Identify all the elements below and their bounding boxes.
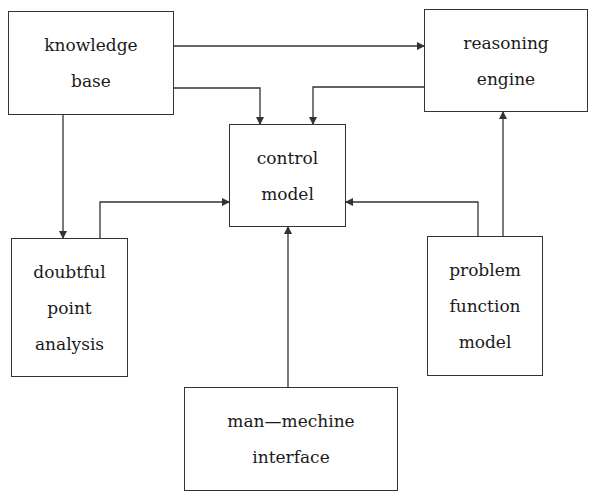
- node-control-model: control model: [229, 124, 346, 227]
- arrow-re-to-cm: [313, 87, 424, 124]
- node-label: control: [257, 140, 318, 176]
- node-problem-function-model: problem function model: [427, 236, 543, 376]
- node-knowledge-base: knowledge base: [8, 11, 174, 115]
- arrow-kb-to-cm: [174, 88, 260, 124]
- node-label: knowledge: [44, 27, 137, 63]
- node-label: engine: [477, 61, 535, 97]
- node-reasoning-engine: reasoning engine: [424, 9, 588, 112]
- node-label: analysis: [35, 326, 104, 362]
- node-label: doubtful: [33, 254, 105, 290]
- node-label: point: [47, 290, 91, 326]
- node-label: problem: [449, 252, 521, 288]
- node-label: model: [459, 324, 512, 360]
- node-label: man—mechine: [227, 403, 354, 439]
- node-label: reasoning: [463, 25, 549, 61]
- node-label: base: [71, 63, 111, 99]
- node-label: interface: [252, 439, 329, 475]
- node-doubtful-point-analysis: doubtful point analysis: [11, 238, 128, 377]
- node-label: function: [449, 288, 520, 324]
- node-label: model: [261, 176, 314, 212]
- arrow-pfm-to-cm: [346, 202, 478, 236]
- arrow-dpa-to-cm: [100, 202, 229, 238]
- node-man-mechine-interface: man—mechine interface: [184, 387, 398, 491]
